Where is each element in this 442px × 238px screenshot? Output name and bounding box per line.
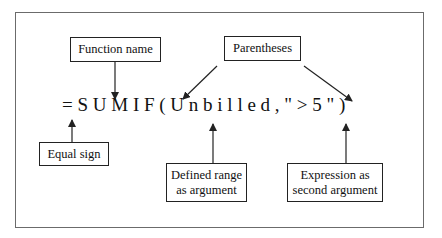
arrow-parentheses-close (304, 66, 352, 101)
arrows-layer (0, 0, 442, 238)
arrow-parentheses-open (183, 66, 217, 99)
